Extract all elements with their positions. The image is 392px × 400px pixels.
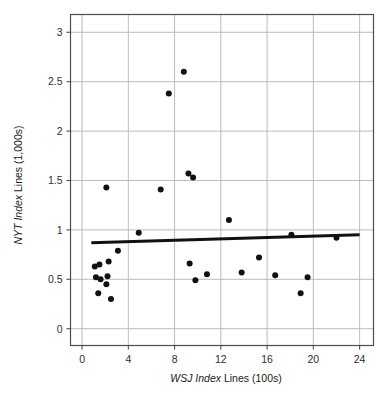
data-point — [108, 296, 114, 302]
data-point — [103, 281, 109, 287]
data-point — [115, 248, 121, 254]
y-tick-label: 3 — [57, 26, 63, 38]
x-tick-label: 16 — [261, 353, 273, 365]
data-point — [192, 277, 198, 283]
data-point — [256, 255, 262, 261]
y-tick-label: 1 — [57, 224, 63, 236]
data-point — [288, 232, 294, 238]
chart-canvas: 00.511.522.53 04812162024 WSJ Index Line… — [0, 0, 392, 400]
y-tick-label: 2.5 — [48, 75, 63, 87]
data-point — [166, 91, 172, 97]
data-point — [272, 272, 278, 278]
data-point — [158, 186, 164, 192]
data-point — [190, 175, 196, 181]
x-axis-title: WSJ Index Lines (100s) — [170, 372, 281, 384]
data-point — [298, 290, 304, 296]
data-point — [136, 230, 142, 236]
data-point — [95, 290, 101, 296]
data-point — [181, 69, 187, 75]
x-tick-label: 20 — [308, 353, 320, 365]
scatter-plot-figure: 00.511.522.53 04812162024 WSJ Index Line… — [0, 0, 392, 400]
data-point — [96, 261, 102, 267]
data-point — [226, 217, 232, 223]
y-axis-title: NYT Index Lines (1,000s) — [12, 125, 24, 244]
data-point — [204, 271, 210, 277]
x-tick-label: 24 — [354, 353, 366, 365]
x-tick-label: 12 — [215, 353, 227, 365]
y-tick-label: 2 — [57, 125, 63, 137]
data-point — [106, 259, 112, 265]
data-point — [98, 276, 104, 282]
x-tick-label: 4 — [125, 353, 131, 365]
data-point — [105, 273, 111, 279]
plot-background — [0, 0, 392, 400]
data-point — [333, 235, 339, 241]
data-point — [239, 269, 245, 275]
y-tick-label: 0.5 — [48, 273, 63, 285]
data-point — [305, 274, 311, 280]
data-point — [103, 184, 109, 190]
x-tick-label: 8 — [172, 353, 178, 365]
data-point — [185, 171, 191, 177]
y-tick-label: 0 — [57, 323, 63, 335]
y-tick-label: 1.5 — [48, 174, 63, 186]
data-point — [187, 260, 193, 266]
x-tick-label: 0 — [79, 353, 85, 365]
